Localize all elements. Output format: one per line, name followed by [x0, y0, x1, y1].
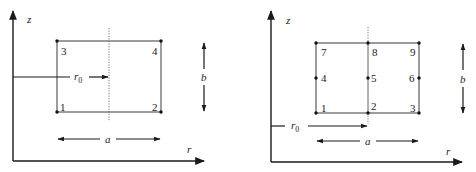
node-label-4: 4: [152, 45, 158, 57]
node-3: [417, 111, 420, 114]
r0-subscript: 0: [78, 76, 82, 85]
node-3: [55, 39, 58, 42]
node-1: [55, 110, 58, 113]
node-label-7: 7: [321, 46, 327, 58]
node-label-6: 6: [409, 72, 415, 84]
z-axis-label: z: [26, 13, 32, 25]
node-2: [366, 111, 369, 114]
b-label: b: [201, 71, 207, 83]
r0-subscript: 0: [295, 125, 299, 134]
node-label-2: 2: [152, 101, 158, 113]
figure-four-node: z r 1 2 3 4 r0 a b: [13, 11, 207, 161]
node-5: [366, 76, 369, 79]
r-axis-label: r: [187, 143, 192, 155]
r0-label: r0: [74, 70, 82, 85]
r-axis-label: r: [446, 145, 451, 157]
node-8: [366, 41, 369, 44]
a-label: a: [365, 135, 371, 147]
diagram-svg: z r 1 2 3 4 r0 a b z r: [0, 0, 476, 172]
diagram-canvas: z r 1 2 3 4 r0 a b z r: [0, 0, 476, 172]
node-7: [314, 41, 317, 44]
a-label: a: [105, 133, 111, 145]
node-4: [314, 76, 317, 79]
node-label-5: 5: [371, 72, 377, 84]
b-label: b: [460, 73, 466, 85]
node-4: [159, 39, 162, 42]
node-label-1: 1: [321, 102, 327, 114]
node-9: [417, 41, 420, 44]
node-label-9: 9: [410, 46, 416, 58]
figure-nine-node: z r 1 2 3 4 5 6 7 8 9 r0 a: [271, 11, 466, 162]
node-2: [159, 110, 162, 113]
node-label-3: 3: [61, 45, 67, 57]
node-label-8: 8: [372, 46, 378, 58]
node-6: [417, 76, 420, 79]
node-label-4: 4: [321, 72, 327, 84]
z-axis-label: z: [285, 14, 291, 26]
r0-label: r0: [291, 119, 299, 134]
node-label-3: 3: [410, 102, 416, 114]
node-label-1: 1: [60, 101, 66, 113]
node-1: [314, 111, 317, 114]
node-label-2: 2: [371, 100, 377, 112]
